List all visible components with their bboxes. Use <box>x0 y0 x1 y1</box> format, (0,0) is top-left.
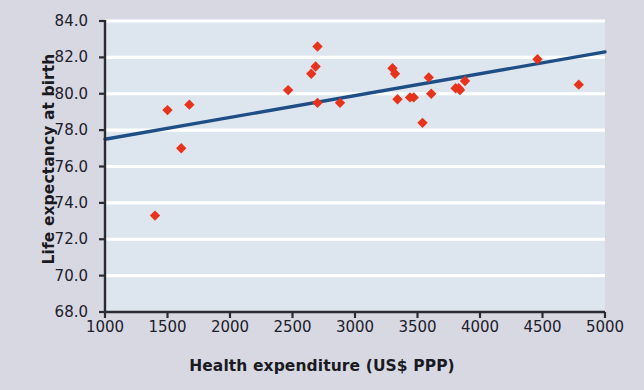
scatter-chart-figure: Life expectancy at birth Health expendit… <box>0 0 644 390</box>
plot-area <box>0 0 644 390</box>
